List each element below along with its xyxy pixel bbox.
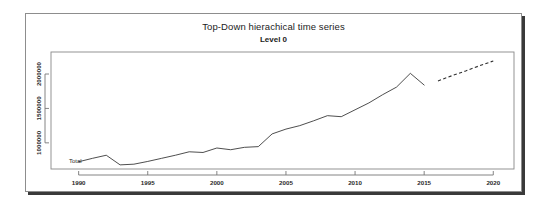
svg-text:2000000: 2000000 <box>35 61 42 86</box>
svg-text:1990: 1990 <box>72 179 86 186</box>
series-line-total <box>79 73 425 165</box>
svg-text:2000: 2000 <box>210 179 224 186</box>
y-axis: 100000015000002000000 <box>35 61 49 154</box>
series-line-forecast <box>438 61 493 81</box>
x-axis: 1990199520002005201020152020 <box>72 171 501 186</box>
svg-text:1000000: 1000000 <box>35 130 42 155</box>
figure-frame: Top-Down hierachical time series Level 0… <box>25 13 522 192</box>
svg-text:2005: 2005 <box>279 179 293 186</box>
svg-text:2015: 2015 <box>417 179 431 186</box>
svg-text:1500000: 1500000 <box>35 96 42 121</box>
svg-text:2010: 2010 <box>348 179 362 186</box>
svg-text:1995: 1995 <box>141 179 155 186</box>
figure-root: Top-Down hierachical time series Level 0… <box>0 0 552 206</box>
svg-text:2020: 2020 <box>486 179 500 186</box>
plot-area: 100000015000002000000 199019952000200520… <box>26 14 521 191</box>
plot-border <box>51 52 514 169</box>
series-label-total: Total <box>69 158 82 164</box>
